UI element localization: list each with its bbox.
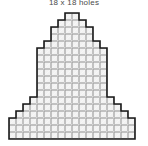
pattern-canvas	[0, 6, 148, 146]
pegboard-grid	[0, 6, 148, 146]
pattern-page: 18 x 18 holes	[0, 0, 148, 146]
pegboard-cells	[9, 13, 135, 139]
